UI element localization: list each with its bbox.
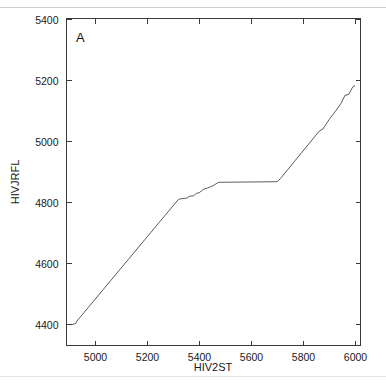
data-series-line	[71, 86, 355, 325]
y-axis-tick-labels: 440046004800500052005400	[35, 14, 59, 331]
panel-label: A	[76, 30, 85, 45]
line-chart: 500052005400560058006000 440046004800500…	[0, 0, 386, 383]
y-tick-label: 5200	[35, 75, 59, 87]
x-tick-label: 5600	[240, 351, 264, 363]
x-tick-label: 6000	[344, 351, 368, 363]
y-tick-label: 5000	[35, 136, 59, 148]
axes-box	[67, 19, 361, 346]
figure-container: 500052005400560058006000 440046004800500…	[0, 0, 386, 383]
y-axis-ticks	[67, 20, 361, 325]
y-tick-label: 4800	[35, 197, 59, 209]
x-tick-label: 5800	[292, 351, 316, 363]
y-tick-label: 4400	[35, 319, 59, 331]
plot-frame	[67, 19, 361, 346]
y-tick-label: 4600	[35, 258, 59, 270]
x-tick-label: 5000	[84, 351, 108, 363]
x-axis-title: HIV2ST	[194, 361, 233, 373]
y-axis-title: HIVJRFL	[9, 160, 21, 205]
x-tick-label: 5200	[136, 351, 160, 363]
y-tick-label: 5400	[35, 14, 59, 26]
